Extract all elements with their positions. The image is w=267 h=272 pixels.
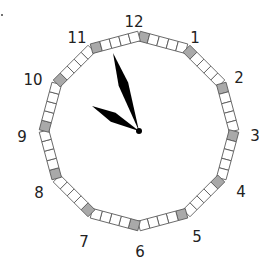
clock-face: 121234567891011 (0, 0, 267, 272)
hour-label-7: 7 (79, 233, 89, 251)
hour-label-6: 6 (135, 243, 145, 261)
stray-dot (1, 14, 3, 16)
hour-label-1: 1 (190, 29, 200, 47)
center-pivot (136, 128, 142, 134)
hour-label-11: 11 (67, 29, 86, 47)
hour-label-5: 5 (192, 228, 202, 246)
clock-hands (92, 53, 142, 134)
minute-marker (128, 31, 140, 43)
hour-label-2: 2 (234, 69, 244, 87)
hour-label-8: 8 (34, 184, 44, 202)
hour-label-12: 12 (124, 13, 143, 31)
hour-label-9: 9 (17, 128, 27, 146)
hour-label-4: 4 (236, 183, 246, 201)
hour-label-3: 3 (250, 127, 260, 145)
hour-label-10: 10 (23, 71, 42, 89)
